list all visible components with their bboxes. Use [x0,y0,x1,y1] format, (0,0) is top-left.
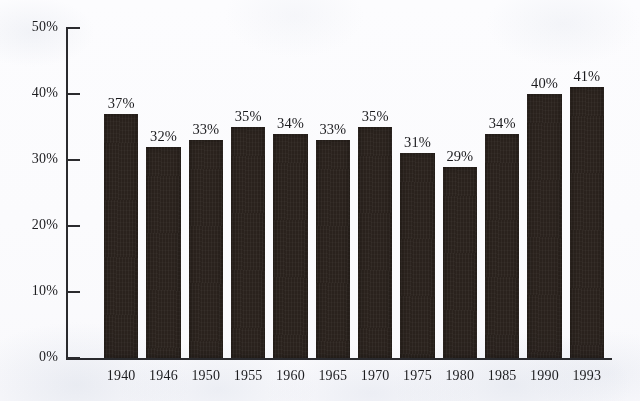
bar [146,147,180,358]
y-axis-tick-label: 10% [8,283,58,299]
bar [358,127,392,358]
y-axis-tick [68,27,80,29]
bar-value-label: 35% [225,108,271,125]
bar-value-label: 34% [479,115,525,132]
x-axis-tick-label: 1950 [183,368,229,384]
bar-value-label: 32% [140,128,186,145]
x-axis-tick-label: 1960 [267,368,313,384]
y-axis-tick [68,225,80,227]
x-axis-tick-label: 1965 [310,368,356,384]
bar [485,134,519,358]
bar-value-label: 34% [267,115,313,132]
y-axis-tick [68,159,80,161]
y-axis-tick [68,291,80,293]
x-axis-line [66,358,612,360]
y-axis-tick-label: 0% [8,349,58,365]
x-axis-tick-label: 1970 [352,368,398,384]
bar [570,87,604,358]
x-axis-tick-label: 1990 [521,368,567,384]
x-axis-tick-label: 1980 [437,368,483,384]
bar [400,153,434,358]
bar [189,140,223,358]
bar-value-label: 35% [352,108,398,125]
bar [443,167,477,358]
bar-value-label: 31% [394,134,440,151]
y-axis-tick [68,93,80,95]
x-axis-tick-label: 1946 [140,368,186,384]
x-axis-tick-label: 1985 [479,368,525,384]
x-axis-tick-label: 1975 [394,368,440,384]
bar-value-label: 40% [521,75,567,92]
y-axis-tick-label: 20% [8,217,58,233]
bar-value-label: 29% [437,148,483,165]
y-axis-tick-label: 50% [8,19,58,35]
bar [231,127,265,358]
y-axis-tick-label: 40% [8,85,58,101]
y-axis-tick [68,357,80,359]
bar-chart-figure: 0%10%20%30%40%50% 37%32%33%35%34%33%35%3… [0,0,640,401]
x-axis-tick-label: 1993 [564,368,610,384]
bar-value-label: 33% [310,121,356,138]
bar [104,114,138,358]
bar-value-label: 37% [98,95,144,112]
x-axis-tick-label: 1955 [225,368,271,384]
bar [527,94,561,358]
bar-value-label: 41% [564,68,610,85]
y-axis-line [66,27,68,360]
bar-value-label: 33% [183,121,229,138]
y-axis-tick-label: 30% [8,151,58,167]
bar [273,134,307,358]
bar [316,140,350,358]
x-axis-tick-label: 1940 [98,368,144,384]
